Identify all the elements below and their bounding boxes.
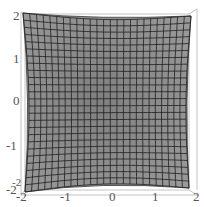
x-tick-1: 1	[152, 190, 159, 203]
x-tick-0: 0	[109, 190, 116, 203]
x-tick-minus-1: -1	[60, 190, 71, 203]
x-tick-2: 2	[193, 190, 200, 203]
y-tick-0: 0	[13, 94, 20, 107]
y-tick-1: 1	[13, 52, 20, 65]
x-tick-minus-2: -2	[16, 190, 27, 203]
y-tick-minus-1: -1	[6, 139, 17, 152]
y-tick-2: 2	[13, 9, 20, 22]
surface-plot	[0, 0, 212, 207]
z-tick-overlap: -2	[12, 177, 21, 188]
